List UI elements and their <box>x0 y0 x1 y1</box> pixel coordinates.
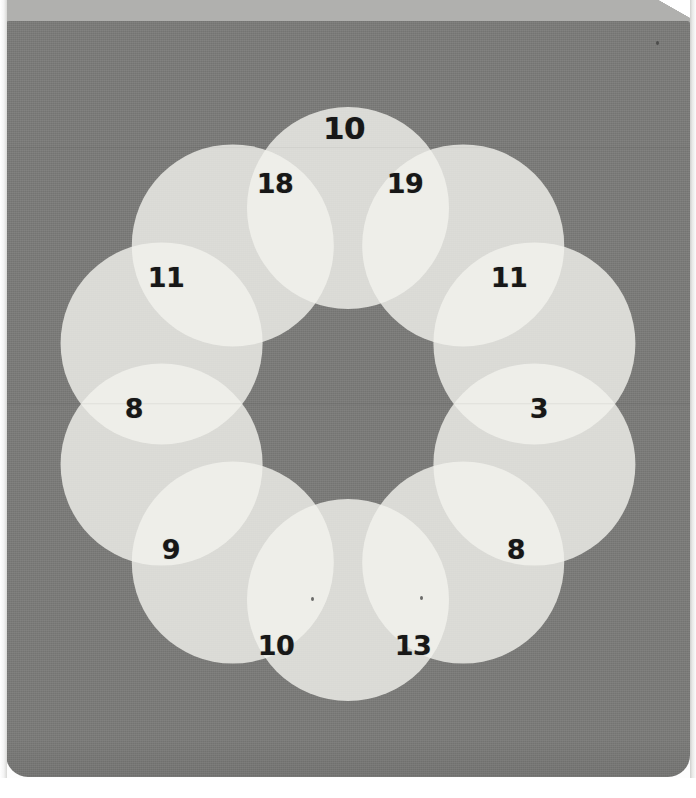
page-edge-right <box>690 0 696 798</box>
dust-speck <box>420 596 423 600</box>
number-label: 3 <box>530 395 548 422</box>
dust-speck <box>656 41 659 45</box>
number-label: 10 <box>323 113 365 144</box>
number-label: 11 <box>491 264 528 291</box>
screenshot-canvas: 101819111183981013 <box>0 0 696 798</box>
number-label: 8 <box>507 536 525 563</box>
page-edge-bottom <box>0 778 696 798</box>
page-edge-left <box>0 0 7 798</box>
sheet-top-band <box>0 0 696 23</box>
panel-shadow <box>6 737 690 777</box>
number-label: 10 <box>258 632 295 659</box>
number-label: 9 <box>162 536 180 563</box>
number-label: 13 <box>395 632 432 659</box>
number-label: 19 <box>387 170 424 197</box>
number-label: 11 <box>148 264 185 291</box>
number-label: 8 <box>125 395 143 422</box>
number-label: 18 <box>257 170 294 197</box>
dust-speck <box>311 597 314 601</box>
